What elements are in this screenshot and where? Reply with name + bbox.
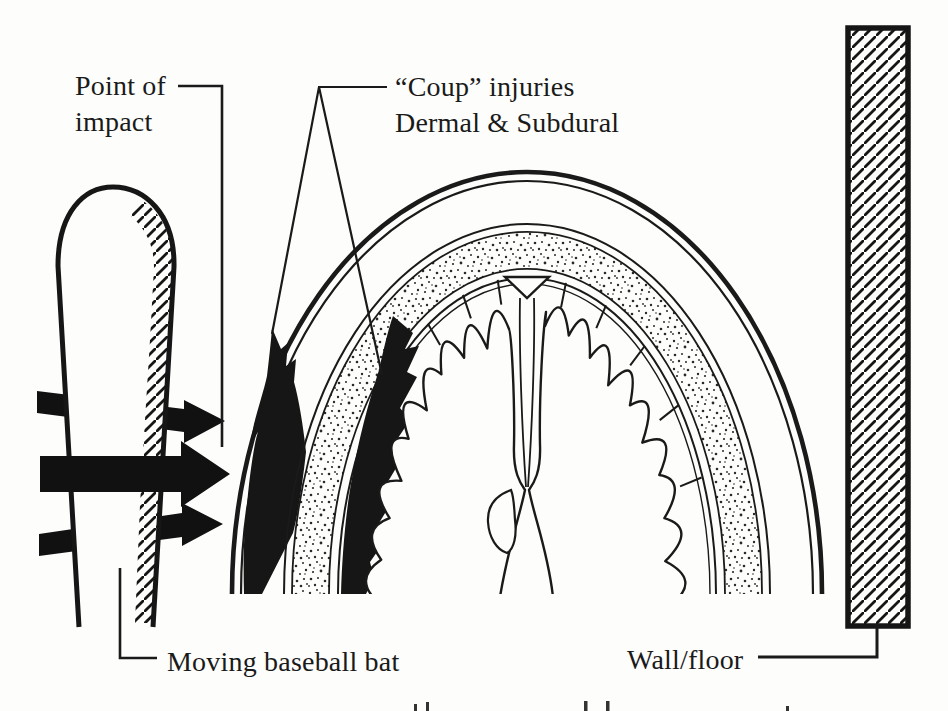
label-point-of-impact-text: Point of impact (75, 68, 190, 140)
leader-point-of-impact (178, 86, 222, 447)
label-moving-baseball-bat: Moving baseball bat (167, 644, 399, 680)
falx-line-left (520, 298, 526, 487)
falx-line-right (528, 298, 534, 487)
caption-cut-off-marks (414, 701, 789, 711)
label-coup-line1: “Coup” injuries (395, 69, 619, 105)
head-cross-section (232, 172, 822, 604)
wall-hatched-rect (848, 28, 908, 626)
label-point-of-impact: Point of impact (75, 68, 190, 140)
leader-wall-floor (758, 624, 877, 657)
moving-baseball-bat (58, 187, 174, 627)
wall-floor-slab (848, 28, 908, 626)
label-wall-floor-text: Wall/floor (627, 644, 743, 675)
label-coup-line2: Dermal & Subdural (395, 105, 619, 141)
falx-cerebri-triangle (505, 277, 549, 298)
coup-injury-figure: Point of impact “Coup” injuries Dermal &… (0, 0, 948, 711)
label-wall-floor: Wall/floor (627, 642, 743, 678)
label-moving-bat-text: Moving baseball bat (167, 646, 399, 677)
label-coup-injuries: “Coup” injuries Dermal & Subdural (395, 69, 619, 141)
